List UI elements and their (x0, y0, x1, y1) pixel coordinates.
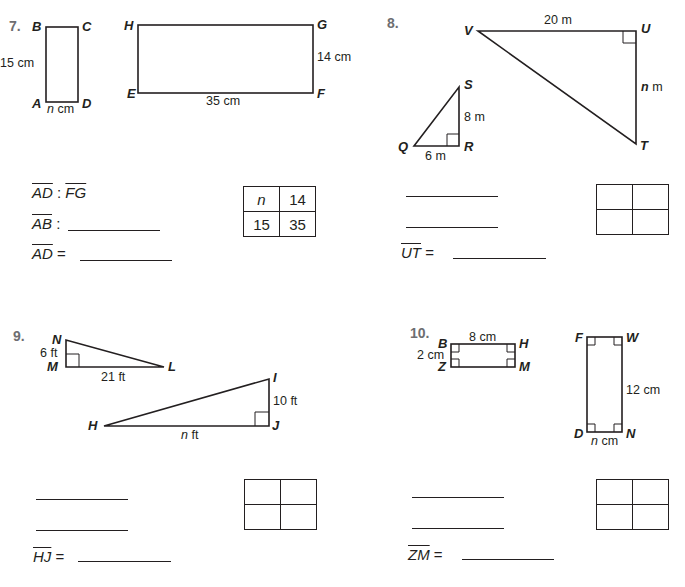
answer-blank[interactable] (406, 196, 498, 197)
vertex-label: R (464, 139, 473, 154)
measure-label: 6 m (425, 149, 446, 163)
table-cell[interactable]: n (244, 187, 280, 212)
measure-label: 2 cm (417, 348, 444, 362)
vertex-label: M (519, 359, 530, 374)
measure-label: 14 cm (317, 50, 351, 64)
ratio-line: AB : (32, 215, 60, 232)
vertex-label: H (519, 336, 528, 351)
vertex-label: W (626, 330, 638, 345)
answer-line: UT = (401, 244, 434, 261)
vertex-label: Q (398, 139, 408, 154)
rectangle-fwnd (0, 0, 1, 1)
problem-number: 10. (410, 325, 429, 341)
vertex-label: M (47, 359, 58, 374)
measure-label: 6 ft (40, 346, 57, 360)
problem-number: 9. (13, 328, 25, 344)
table-cell[interactable] (245, 480, 281, 505)
vertex-label: I (273, 370, 277, 385)
answer-blank[interactable] (68, 230, 160, 231)
ratio-line: AD : FG (32, 184, 86, 201)
vertex-label: U (641, 21, 650, 36)
table-cell[interactable]: 15 (244, 212, 280, 237)
answer-blank[interactable] (412, 528, 504, 529)
vertex-label: N (52, 332, 61, 347)
vertex-label: H (124, 18, 133, 33)
measure-label: n cm (591, 434, 618, 448)
proportion-table (596, 184, 669, 235)
vertex-label: E (127, 86, 136, 101)
vertex-label: J (272, 418, 279, 433)
answer-blank[interactable] (462, 559, 554, 560)
proportion-table: n14 1535 (243, 186, 316, 237)
measure-label: 12 cm (626, 383, 660, 397)
vertex-label: D (82, 96, 91, 111)
table-cell[interactable] (597, 480, 633, 505)
table-cell[interactable] (281, 505, 317, 530)
answer-line: AD = (32, 245, 66, 262)
measure-label: 8 m (464, 110, 485, 124)
problem-number: 8. (387, 15, 399, 31)
answer-blank[interactable] (36, 499, 128, 500)
vertex-label: N (626, 426, 635, 441)
proportion-table (596, 479, 669, 530)
answer-blank[interactable] (80, 260, 172, 261)
vertex-label: B (32, 19, 41, 34)
table-cell[interactable] (633, 480, 669, 505)
answer-line: ZM = (408, 546, 443, 563)
vertex-label: S (464, 77, 473, 92)
answer-line: HJ = (33, 548, 64, 565)
vertex-label: A (32, 96, 41, 111)
measure-label: 35 cm (206, 94, 240, 108)
table-cell[interactable]: 14 (280, 187, 316, 212)
measure-label: n cm (47, 102, 74, 116)
vertex-label: L (168, 359, 176, 374)
problem-number: 7. (9, 18, 21, 34)
answer-blank[interactable] (36, 530, 128, 531)
measure-label: 21 ft (101, 370, 125, 384)
vertex-label: V (464, 23, 473, 38)
table-cell[interactable] (597, 210, 633, 235)
table-cell[interactable] (245, 505, 281, 530)
measure-label: 20 m (544, 13, 572, 27)
table-cell[interactable] (633, 210, 669, 235)
table-cell[interactable]: 35 (280, 212, 316, 237)
vertex-label: C (82, 19, 91, 34)
vertex-label: T (640, 138, 648, 153)
answer-blank[interactable] (453, 258, 546, 259)
measure-label: n m (641, 80, 663, 94)
table-cell[interactable] (633, 505, 669, 530)
answer-blank[interactable] (412, 497, 504, 498)
proportion-table (244, 479, 317, 530)
vertex-label: G (317, 17, 327, 32)
measure-label: 10 ft (273, 394, 297, 408)
measure-label: 8 cm (469, 330, 496, 344)
answer-blank[interactable] (406, 227, 498, 228)
vertex-label: F (317, 86, 325, 101)
answer-blank[interactable] (78, 561, 171, 562)
table-cell[interactable] (281, 480, 317, 505)
vertex-label: D (574, 426, 583, 441)
measure-label: 15 cm (0, 56, 34, 70)
vertex-label: F (575, 330, 583, 345)
measure-label: n ft (181, 428, 198, 442)
table-cell[interactable] (633, 185, 669, 210)
table-cell[interactable] (597, 185, 633, 210)
table-cell[interactable] (597, 505, 633, 530)
vertex-label: H (88, 418, 97, 433)
